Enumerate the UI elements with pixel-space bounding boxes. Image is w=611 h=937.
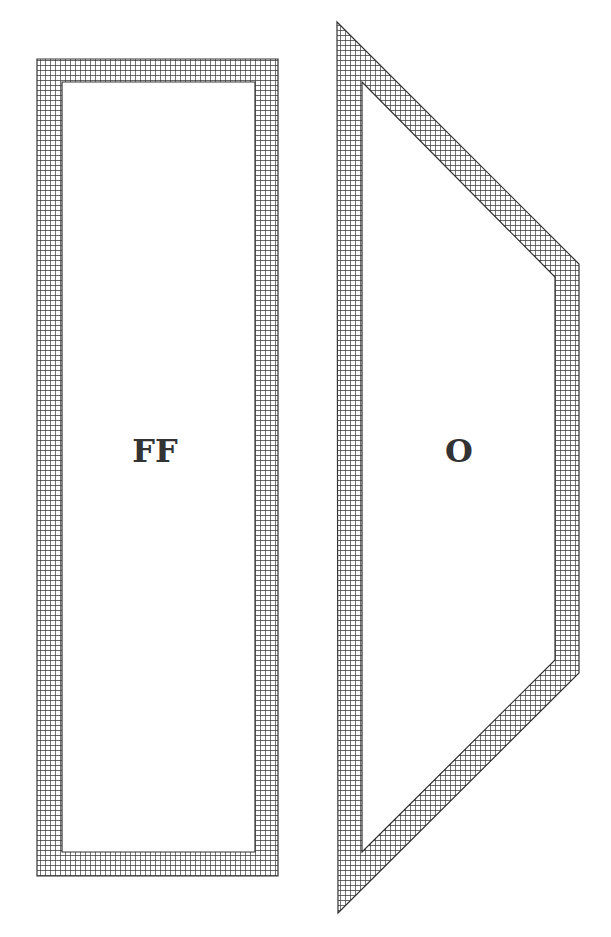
right-trapezoid-shape: O (337, 22, 579, 913)
right-trapezoid-label: O (445, 432, 473, 470)
left-rectangle-label: FF (132, 432, 178, 470)
left-rectangle-shape: FF (37, 59, 278, 876)
diagram-canvas: FF O (0, 0, 611, 937)
